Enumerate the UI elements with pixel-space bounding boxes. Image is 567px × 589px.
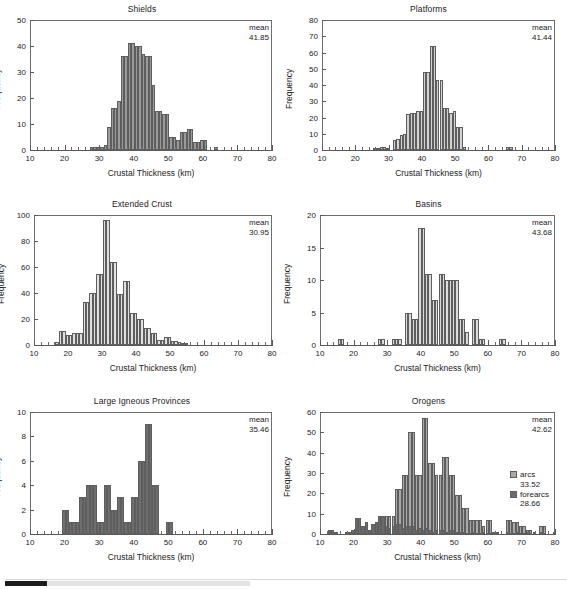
x-axis-minor-tick: [251, 147, 252, 150]
x-axis-minor-tick: [427, 531, 428, 534]
x-axis-tick-mark: [272, 145, 273, 150]
x-axis-minor-tick: [542, 342, 543, 345]
x-axis-tick-mark: [203, 529, 204, 534]
x-axis-tick-mark: [455, 145, 456, 150]
x-axis-tick-mark: [237, 145, 238, 150]
x-axis-tick-label: 30: [98, 349, 107, 358]
x-axis-tick-mark: [387, 529, 388, 534]
x-axis-minor-tick: [37, 147, 38, 150]
x-axis-tick-label: 30: [383, 349, 392, 358]
x-axis-minor-tick: [394, 531, 395, 534]
x-axis-minor-tick: [51, 147, 52, 150]
x-axis-label: Crustal Thickness (km): [322, 168, 555, 178]
x-axis-minor-tick: [401, 342, 402, 345]
mean-value: 41.44: [532, 33, 552, 43]
x-axis-minor-tick: [462, 147, 463, 150]
mean-label: mean: [249, 218, 269, 228]
x-axis-tick-mark: [421, 529, 422, 534]
y-axis-tick-mark: [322, 53, 326, 54]
y-axis-tick-label: 20: [8, 315, 30, 324]
x-axis-minor-tick: [395, 147, 396, 150]
x-axis-minor-tick: [360, 342, 361, 345]
mean-annotation: mean43.68: [532, 218, 552, 238]
x-axis-tick-mark: [168, 529, 169, 534]
x-axis-minor-tick: [252, 342, 253, 345]
x-axis-minor-tick: [265, 531, 266, 534]
x-axis: [320, 534, 556, 535]
x-axis-minor-tick: [495, 342, 496, 345]
x-axis-minor-tick: [474, 342, 475, 345]
x-axis-minor-tick: [231, 342, 232, 345]
x-axis-tick-label: 30: [95, 154, 104, 163]
x-axis-tick-mark: [65, 145, 66, 150]
y-axis-tick-label: 10: [296, 129, 318, 138]
x-axis-minor-tick: [210, 531, 211, 534]
x-axis-tick-label: 30: [383, 538, 392, 547]
x-axis-tick-mark: [203, 145, 204, 150]
y-axis-label: Frequency: [282, 457, 292, 497]
x-axis-minor-tick: [382, 147, 383, 150]
x-axis-minor-tick: [85, 147, 86, 150]
x-axis-minor-tick: [481, 342, 482, 345]
x-axis-tick-mark: [170, 340, 171, 345]
x-axis-minor-tick: [85, 531, 86, 534]
x-axis-minor-tick: [217, 147, 218, 150]
x-axis-minor-tick: [75, 342, 76, 345]
mean-value: 42.62: [532, 425, 552, 435]
x-axis-tick-mark: [322, 145, 323, 150]
x-axis-tick-label: 60: [198, 154, 207, 163]
x-axis-minor-tick: [435, 147, 436, 150]
x-axis-minor-tick: [468, 531, 469, 534]
x-axis-tick-mark: [422, 145, 423, 150]
x-axis-minor-tick: [44, 531, 45, 534]
scrollbar-thumb[interactable]: [5, 581, 47, 586]
x-axis-minor-tick: [78, 147, 79, 150]
x-axis-minor-tick: [515, 531, 516, 534]
panel-orogens: Orogens01020304050601020304050607080Crus…: [290, 396, 567, 578]
x-axis: [30, 150, 273, 151]
y-axis-tick-label: 50: [294, 428, 316, 437]
x-axis-tick-label: 20: [349, 538, 358, 547]
x-axis-minor-tick: [468, 342, 469, 345]
y-axis-tick-label: 0: [296, 146, 318, 155]
x-axis-minor-tick: [347, 342, 348, 345]
x-axis-minor-tick: [409, 147, 410, 150]
y-axis-label: Frequency: [0, 264, 6, 304]
x-axis-minor-tick: [120, 531, 121, 534]
y-axis-tick-mark: [30, 461, 34, 462]
legend-mean-value: 33.52: [520, 480, 549, 490]
x-axis-minor-tick: [508, 342, 509, 345]
x-axis-tick-label: 80: [268, 538, 277, 547]
x-axis-tick-label: 80: [551, 538, 560, 547]
x-axis-minor-tick: [367, 531, 368, 534]
x-axis-minor-tick: [58, 147, 59, 150]
y-axis-tick-mark: [30, 485, 34, 486]
y-axis-tick-label: 40: [4, 42, 26, 51]
x-axis-minor-tick: [508, 147, 509, 150]
x-axis-tick-label: 10: [30, 349, 39, 358]
y-axis-tick-mark: [320, 248, 324, 249]
horizontal-scrollbar[interactable]: [5, 581, 250, 586]
x-axis-minor-tick: [442, 147, 443, 150]
bar-group: [321, 216, 554, 345]
x-axis-minor-tick: [217, 531, 218, 534]
y-axis-tick-mark: [320, 493, 324, 494]
x-axis-minor-tick: [415, 147, 416, 150]
legend-item: forearcs28.66: [510, 490, 549, 510]
x-axis-tick-mark: [272, 529, 273, 534]
x-axis-minor-tick: [196, 531, 197, 534]
y-axis-tick-label: 10: [294, 509, 316, 518]
x-axis-minor-tick: [154, 531, 155, 534]
x-axis-minor-tick: [196, 147, 197, 150]
x-axis-minor-tick: [265, 342, 266, 345]
x-axis-tick-mark: [454, 529, 455, 534]
x-axis-minor-tick: [461, 342, 462, 345]
x-axis-minor-tick: [184, 342, 185, 345]
x-axis-tick-label: 20: [60, 538, 69, 547]
x-axis-minor-tick: [535, 342, 536, 345]
mean-annotation: mean35.46: [249, 415, 269, 435]
y-axis-tick-label: 10: [294, 276, 316, 285]
x-axis-label: Crustal Thickness (km): [30, 168, 272, 178]
x-axis-tick-label: 30: [95, 538, 104, 547]
x-axis-tick-label: 60: [198, 538, 207, 547]
